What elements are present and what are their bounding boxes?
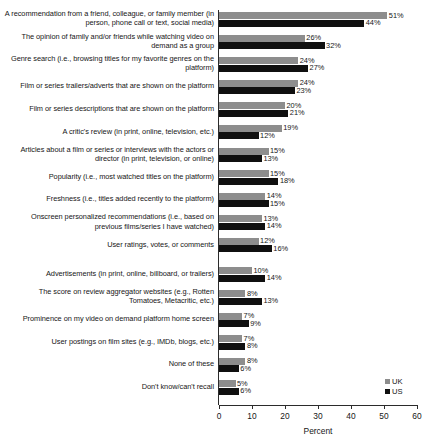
category-label: Film or series descriptions that are sho… — [4, 101, 214, 116]
bar-pair: 14%15% — [219, 193, 417, 208]
bar-pair: 15%18% — [219, 170, 417, 185]
bar-us — [219, 65, 308, 72]
category-label: A recommendation from a friend, colleagu… — [4, 11, 214, 26]
bar-value-us: 15% — [270, 200, 285, 207]
bar-row: Genre search (i.e., browsing titles for … — [0, 57, 425, 80]
bar-value-us: 27% — [310, 64, 325, 71]
x-tick — [252, 405, 253, 409]
bar-pair: 24%27% — [219, 57, 417, 72]
bar-pair: 10%14% — [219, 267, 417, 282]
bar-us — [219, 298, 262, 305]
bar-us — [219, 365, 239, 372]
bar-pair: 13%14% — [219, 215, 417, 230]
bar-value-us: 44% — [366, 19, 381, 26]
category-label: Prominence on my video on demand platfor… — [4, 312, 214, 327]
bar-value-us: 23% — [296, 87, 311, 94]
bar-uk — [219, 238, 259, 245]
legend-label-us: US — [392, 387, 403, 397]
bar-us — [219, 155, 262, 162]
bar-uk — [219, 148, 269, 155]
bar-row: Prominence on my video on demand platfor… — [0, 313, 425, 336]
bar-us — [219, 275, 265, 282]
bar-value-us: 13% — [263, 297, 278, 304]
category-label: Film or series trailers/adverts that are… — [4, 79, 214, 94]
legend-swatch-us-icon — [385, 389, 390, 394]
legend-label-uk: UK — [392, 377, 403, 387]
bar-pair: 20%21% — [219, 102, 417, 117]
bar-row: Film or series trailers/adverts that are… — [0, 80, 425, 103]
bar-pair: 12%16% — [219, 238, 417, 253]
bar-pair: 26%32% — [219, 35, 417, 50]
bar-us — [219, 42, 325, 49]
x-tick-label: 10 — [239, 411, 265, 421]
x-tick-label: 40 — [338, 411, 364, 421]
bar-uk — [219, 335, 242, 342]
category-label: None of these — [4, 357, 214, 372]
bar-us — [219, 200, 269, 207]
horizontal-bar-chart: A recommendation from a friend, colleagu… — [0, 0, 425, 447]
bar-value-us: 8% — [247, 342, 258, 349]
x-tick-label: 0 — [206, 411, 232, 421]
x-tick-label: 30 — [305, 411, 331, 421]
x-tick — [417, 405, 418, 409]
bar-value-us: 6% — [240, 365, 251, 372]
x-tick-label: 60 — [404, 411, 425, 421]
bar-value-us: 13% — [263, 155, 278, 162]
bar-us — [219, 110, 288, 117]
legend-item-uk: UK — [385, 377, 403, 387]
bar-uk — [219, 267, 252, 274]
bar-value-us: 14% — [267, 274, 282, 281]
legend-item-us: US — [385, 387, 403, 397]
bar-row: Onscreen personalized recommendations (i… — [0, 215, 425, 238]
bar-uk — [219, 35, 305, 42]
category-label: Genre search (i.e., browsing titles for … — [4, 56, 214, 71]
bar-us — [219, 388, 239, 395]
bar-value-uk: 51% — [389, 12, 404, 19]
bar-pair: 15%13% — [219, 148, 417, 163]
x-tick — [384, 405, 385, 409]
category-label: The score on review aggregator websites … — [4, 289, 214, 304]
bar-value-us: 16% — [273, 245, 288, 252]
bar-us — [219, 132, 259, 139]
category-label: Don't know/can't recall — [4, 379, 214, 394]
x-tick-label: 20 — [272, 411, 298, 421]
bar-pair: 19%12% — [219, 125, 417, 140]
bar-pair: 51%44% — [219, 12, 417, 27]
bar-value-us: 6% — [240, 387, 251, 394]
category-label: Freshness (i.e., titles added recently t… — [4, 192, 214, 207]
bar-row: None of these8%6% — [0, 358, 425, 381]
category-label: User ratings, votes, or comments — [4, 237, 214, 252]
chart-legend: UK US — [385, 377, 403, 396]
x-tick — [219, 405, 220, 409]
bar-pair: 8%6% — [219, 358, 417, 373]
bar-uk — [219, 57, 298, 64]
bar-uk — [219, 215, 262, 222]
bar-us — [219, 245, 272, 252]
bar-us — [219, 178, 278, 185]
bar-value-uk: 8% — [247, 290, 258, 297]
bar-uk — [219, 290, 245, 297]
bar-row: User postings on film sites (e.g., IMDb,… — [0, 335, 425, 358]
bar-uk — [219, 380, 236, 387]
bar-uk — [219, 12, 387, 19]
bar-value-uk: 19% — [283, 124, 298, 131]
x-tick — [351, 405, 352, 409]
category-label: Popularity (i.e., most watched titles on… — [4, 169, 214, 184]
bar-row: The score on review aggregator websites … — [0, 290, 425, 313]
x-axis-title: Percent — [219, 426, 417, 436]
bar-row: Don't know/can't recall5%6% — [0, 380, 425, 403]
bar-row: Film or series descriptions that are sho… — [0, 102, 425, 125]
bar-uk — [219, 193, 265, 200]
bar-pair: 7%8% — [219, 335, 417, 350]
category-label: Advertisements (in print, online, billbo… — [4, 266, 214, 281]
bar-value-us: 9% — [250, 320, 261, 327]
bar-us — [219, 87, 295, 94]
bar-value-us: 18% — [280, 177, 295, 184]
bar-us — [219, 20, 364, 27]
bar-value-uk: 26% — [306, 34, 321, 41]
bar-row: Articles about a film or series or inter… — [0, 148, 425, 171]
x-tick — [285, 405, 286, 409]
bar-uk — [219, 80, 298, 87]
bar-value-us: 12% — [260, 132, 275, 139]
bar-value-us: 32% — [326, 42, 341, 49]
